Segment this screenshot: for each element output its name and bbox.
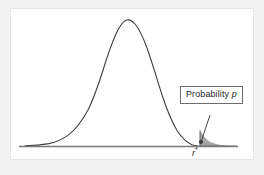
- plot-panel: [10, 8, 254, 160]
- figure-root: Probability p r*: [0, 0, 264, 175]
- normal-density-curve: [25, 20, 237, 147]
- callout-target-marker: [199, 140, 203, 144]
- callout-label-prefix: Probability: [186, 89, 232, 99]
- callout-leader-line: [201, 115, 210, 142]
- x-axis-tick-label-critical-value: r*: [192, 148, 198, 158]
- upper-tail-shaded-region-fill: [200, 131, 237, 147]
- probability-callout-box: Probability p: [180, 86, 243, 104]
- normal-distribution-plot: [11, 9, 254, 160]
- tick-label-superscript: *: [195, 146, 198, 153]
- callout-label-symbol: p: [232, 89, 237, 99]
